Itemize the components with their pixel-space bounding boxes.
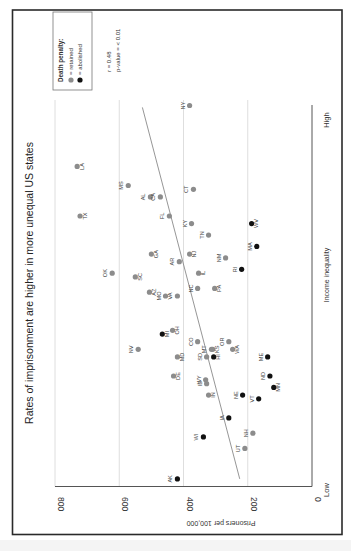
- data-point-il: IL: [196, 271, 206, 276]
- point-label: SD: [197, 353, 203, 361]
- point-dot-icon: [187, 103, 192, 108]
- point-label: ND: [260, 372, 266, 380]
- point-label: IN: [210, 392, 216, 398]
- point-label: MD: [179, 353, 185, 362]
- data-point-hi: HI: [211, 354, 221, 360]
- point-dot-icon: [158, 194, 163, 199]
- point-dot-icon: [267, 373, 272, 378]
- point-dot-icon: [175, 476, 180, 481]
- point-dot-icon: [195, 286, 200, 291]
- point-label: MI: [164, 331, 170, 338]
- y-tick-400: 400: [185, 497, 195, 511]
- x-axis-high-label: High: [322, 112, 331, 127]
- point-dot-icon: [254, 244, 259, 249]
- point-label: MO: [156, 291, 162, 301]
- point-label: AK: [167, 475, 173, 483]
- point-label: SC: [137, 273, 143, 281]
- point-dot-icon: [226, 415, 231, 420]
- point-dot-icon: [110, 271, 115, 276]
- x-axis-label: Income inequality: [323, 247, 331, 302]
- point-dot-icon: [265, 354, 270, 359]
- point-label: LA: [79, 163, 85, 170]
- legend-retained-label: = retained: [68, 48, 74, 75]
- point-dot-icon: [175, 293, 180, 298]
- page-bottom-strip: [0, 540, 351, 551]
- point-label: GA: [153, 250, 159, 258]
- point-label: NC: [188, 284, 194, 292]
- point-label: MS: [118, 181, 124, 190]
- point-label: AL: [140, 194, 146, 201]
- point-dot-icon: [250, 431, 255, 436]
- point-label: MN: [275, 383, 281, 392]
- point-label: ID: [197, 381, 203, 387]
- point-label: WV: [253, 219, 259, 228]
- point-dot-icon: [167, 213, 172, 218]
- point-label: FL: [159, 213, 165, 220]
- point-label: KY: [182, 220, 188, 228]
- point-label: ME: [258, 352, 264, 361]
- scatter-chart: 0200400600800 Rates of imprisonment are …: [0, 0, 351, 551]
- point-label: WA: [234, 345, 240, 354]
- legend-abolished-dot-icon: [77, 77, 82, 82]
- point-label: TX: [82, 212, 88, 219]
- stat-r: r = 0.48: [106, 51, 112, 72]
- legend-title: Death penalty:: [57, 39, 65, 82]
- point-label: NJ: [191, 250, 197, 257]
- point-label: OH: [174, 326, 180, 334]
- legend-retained-dot-icon: [68, 77, 73, 82]
- y-tick-200: 200: [249, 497, 259, 511]
- point-label: VT: [249, 395, 255, 403]
- point-dot-icon: [226, 339, 231, 344]
- point-dot-icon: [239, 267, 244, 272]
- legend-abolished-label: = abolished: [77, 44, 83, 75]
- point-label: IL: [200, 271, 206, 276]
- x-axis-low-label: Low: [322, 483, 331, 497]
- point-dot-icon: [206, 232, 211, 237]
- y-tick-600: 600: [120, 497, 130, 511]
- point-dot-icon: [136, 347, 141, 352]
- point-dot-icon: [191, 187, 196, 192]
- point-dot-icon: [223, 255, 228, 260]
- point-label: RI: [232, 266, 238, 272]
- legend: Death penalty: = retained = abolished: [53, 12, 92, 90]
- point-dot-icon: [240, 392, 245, 397]
- point-label: TN: [199, 231, 205, 238]
- point-label: OR: [219, 338, 225, 346]
- chart-title: Rates of imprisonment are higher in more…: [23, 142, 35, 424]
- point-dot-icon: [126, 183, 131, 188]
- point-label: PA: [216, 285, 222, 292]
- point-dot-icon: [201, 434, 206, 439]
- y-tick-800: 800: [56, 497, 66, 511]
- point-dot-icon: [195, 339, 200, 344]
- point-label: NH: [243, 429, 249, 437]
- point-dot-icon: [242, 446, 247, 451]
- data-point-in: IN: [206, 392, 216, 398]
- point-label: IA: [219, 415, 225, 421]
- point-label: NV: [128, 345, 134, 353]
- point-label: CT: [183, 185, 189, 193]
- point-label: MA: [247, 242, 253, 251]
- point-label: WI: [193, 433, 199, 440]
- point-label: HI: [215, 354, 221, 360]
- stat-p: p-value = < 0.01: [115, 28, 121, 72]
- point-label: KS: [214, 345, 220, 353]
- point-label: CO: [188, 337, 194, 346]
- point-label: DE: [175, 372, 181, 380]
- point-label: AR: [169, 258, 175, 266]
- point-label: NY: [180, 101, 186, 109]
- point-dot-icon: [204, 381, 209, 386]
- y-axis-label: Prisoners per 100,000: [186, 519, 255, 527]
- point-dot-icon: [177, 259, 182, 264]
- point-label: NM: [216, 253, 222, 262]
- point-dot-icon: [189, 221, 194, 226]
- point-label: UT: [235, 444, 241, 452]
- point-dot-icon: [204, 354, 209, 359]
- point-label: CA: [150, 193, 156, 201]
- point-dot-icon: [256, 396, 261, 401]
- point-label: VA: [167, 292, 173, 299]
- point-label: NE: [233, 391, 239, 399]
- point-label: OK: [102, 269, 108, 277]
- point-label: MT: [201, 345, 207, 354]
